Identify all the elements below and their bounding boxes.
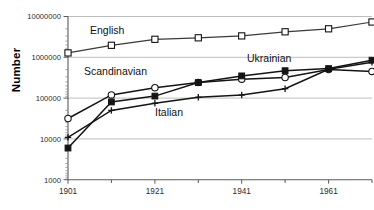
data-point-ukrainian (239, 73, 245, 79)
xtick-label-1901: 1901 (59, 187, 78, 196)
xtick-label-1921: 1921 (146, 187, 165, 196)
x-axis-ticks (68, 180, 372, 184)
data-point-ukrainian (195, 80, 201, 86)
data-point-english (65, 50, 71, 56)
xtick-label-1941: 1941 (233, 187, 252, 196)
data-point-english (152, 36, 158, 42)
data-point-ukrainian (65, 145, 71, 151)
data-point-scandinavian (152, 85, 158, 91)
data-point-scandinavian (108, 92, 114, 98)
x-axis-tick-labels: 1901 1921 1941 1961 (59, 187, 338, 196)
data-point-english (369, 19, 374, 25)
y-axis-ticks (64, 17, 69, 180)
data-point-ukrainian (152, 93, 158, 99)
xtick-label-1961: 1961 (319, 187, 338, 196)
data-point-italian (195, 94, 201, 100)
data-point-scandinavian (65, 115, 71, 121)
series-label-italian: Italian (155, 106, 183, 118)
data-point-english (108, 42, 114, 48)
ytick-label-1000: 1000 (44, 176, 61, 185)
plot-area: 10000000 1000000 100000 10000 1000 1901 … (0, 0, 374, 210)
ytick-label-1000000: 1000000 (31, 53, 61, 62)
data-point-scandinavian (369, 68, 374, 74)
series-label-english: English (90, 24, 125, 36)
chart-container: Number (0, 0, 374, 210)
ytick-label-100000: 100000 (36, 94, 61, 103)
data-point-italian (239, 92, 245, 98)
data-point-english (195, 35, 201, 41)
y-axis-tick-labels: 10000000 1000000 100000 10000 1000 (27, 12, 61, 184)
data-point-ukrainian (109, 99, 115, 105)
ytick-label-10000000: 10000000 (27, 12, 61, 21)
series-label-ukrainian: Ukrainian (247, 52, 292, 64)
data-point-english (282, 29, 288, 35)
data-point-english (239, 33, 245, 39)
data-point-scandinavian (282, 74, 288, 80)
data-point-ukrainian (282, 68, 288, 74)
data-point-italian (282, 86, 288, 92)
series-label-scandinavian: Scandinavian (84, 65, 147, 77)
ytick-label-10000: 10000 (40, 135, 61, 144)
data-point-english (326, 26, 332, 32)
